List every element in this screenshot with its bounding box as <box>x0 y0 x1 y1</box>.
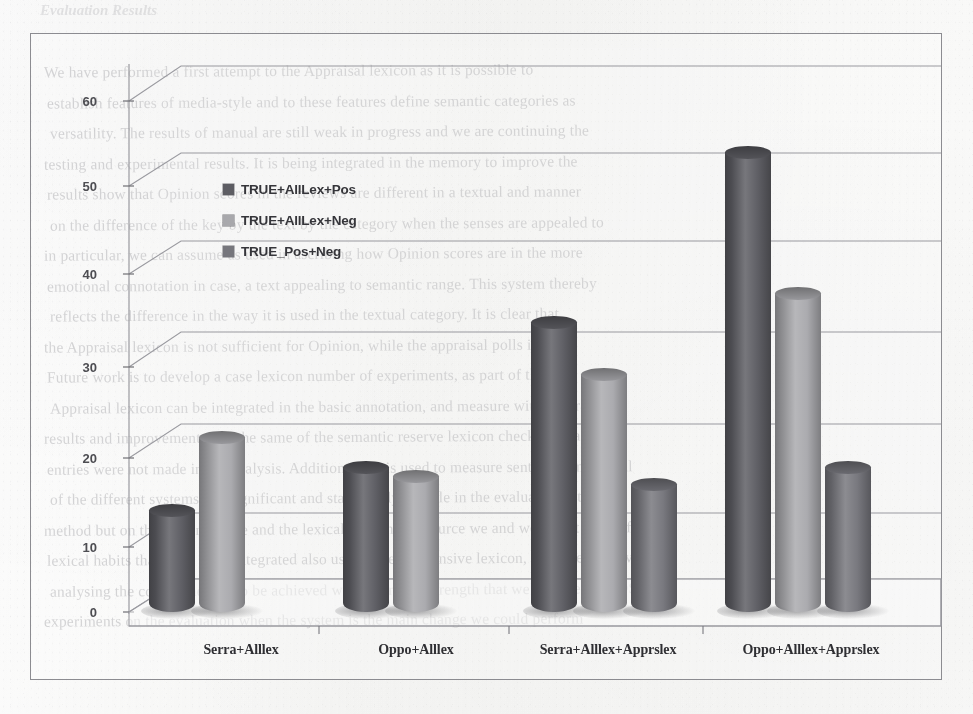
bar <box>825 467 871 612</box>
legend-label-1: TRUE+AllLex+Neg <box>241 213 357 228</box>
bar-body <box>725 152 771 612</box>
legend-item-1[interactable]: TRUE+AllLex+Neg <box>223 205 357 236</box>
bar <box>149 510 195 612</box>
legend-swatch-icon <box>223 215 234 226</box>
legend-item-0[interactable]: TRUE+AllLex+Pos <box>223 174 357 205</box>
bar-body <box>775 293 821 612</box>
bar-top-cap <box>775 287 821 300</box>
bar-body <box>581 374 627 612</box>
bar-body <box>343 467 389 612</box>
bar <box>199 437 245 612</box>
bar-layer <box>31 34 943 681</box>
bar-body <box>531 322 577 612</box>
legend-swatch-icon <box>223 184 234 195</box>
legend-label-2: TRUE_Pos+Neg <box>241 244 341 259</box>
bar <box>725 152 771 612</box>
bar <box>581 374 627 612</box>
category-label-2: Serra+Alllex+Apprslex <box>493 642 723 658</box>
chart-legend: TRUE+AllLex+Pos TRUE+AllLex+Neg TRUE_Pos… <box>223 174 357 267</box>
legend-swatch-icon <box>223 246 234 257</box>
category-label-3: Oppo+Alllex+Apprslex <box>691 642 931 658</box>
category-label-1: Oppo+Alllex <box>321 642 511 658</box>
chart-plot-area: 60 50 40 30 20 10 0 Serra+Alllex Oppo+Al… <box>31 34 941 679</box>
bar-body <box>631 484 677 612</box>
bar-top-cap <box>149 504 195 517</box>
bar-body <box>149 510 195 612</box>
bar <box>531 322 577 612</box>
scanned-page: Evaluation ResultsWe have performed a fi… <box>0 0 973 714</box>
bar-body <box>199 437 245 612</box>
bar-body <box>825 467 871 612</box>
bar-body <box>393 476 439 612</box>
bar <box>343 467 389 612</box>
bar-top-cap <box>581 368 627 381</box>
legend-label-0: TRUE+AllLex+Pos <box>241 182 356 197</box>
bar <box>631 484 677 612</box>
bar <box>393 476 439 612</box>
chart-frame: 60 50 40 30 20 10 0 Serra+Alllex Oppo+Al… <box>30 33 942 680</box>
legend-item-2[interactable]: TRUE_Pos+Neg <box>223 236 357 267</box>
bar-top-cap <box>393 470 439 483</box>
bar <box>775 293 821 612</box>
category-label-0: Serra+Alllex <box>141 642 341 658</box>
